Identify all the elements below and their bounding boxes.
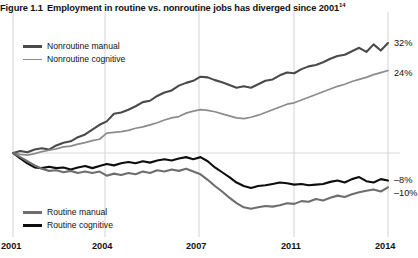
xtick-label-2007: 2007	[186, 241, 206, 251]
figure-footnote-marker: 14	[339, 2, 345, 8]
endpoint-label-routine-cognitive: –8%	[394, 175, 412, 185]
data-series-group	[13, 43, 388, 209]
legend-routine-cognitive[interactable]: Routine cognitive	[23, 219, 113, 232]
xtick-label-2004: 2004	[92, 241, 112, 251]
legend-swatch-icon	[23, 59, 42, 61]
figure-container: Figure 1.1Employment in routine vs. nonr…	[0, 0, 418, 258]
xtick-label-2011: 2011	[281, 241, 301, 251]
endpoint-label-routine-manual: –10%	[394, 188, 418, 198]
legend-routine-cognitive-label: Routine cognitive	[47, 219, 113, 232]
xtick-label-2001: 2001	[1, 241, 21, 251]
legend-swatch-icon	[23, 45, 42, 48]
endpoint-label-nonroutine-cognitive: 24%	[394, 68, 412, 78]
legend-nonroutine-cognitive[interactable]: Nonroutine cognitive	[23, 53, 125, 66]
legend-nonroutine-manual-label: Nonroutine manual	[47, 40, 120, 53]
xtick-label-2014: 2014	[375, 241, 395, 251]
legend-routine-manual[interactable]: Routine manual	[23, 206, 113, 219]
legend-swatch-icon	[23, 224, 42, 227]
endpoint-label-nonroutine-manual: 32%	[394, 38, 412, 48]
legend-routine-manual-label: Routine manual	[47, 206, 107, 219]
legend-nonroutine-manual[interactable]: Nonroutine manual	[23, 40, 125, 53]
x-axis-labels: 20012004200720112014	[0, 241, 418, 255]
legend-bottom: Routine manualRoutine cognitive	[23, 206, 113, 232]
legend-top: Nonroutine manualNonroutine cognitive	[23, 40, 125, 66]
legend-swatch-icon	[23, 211, 42, 213]
legend-nonroutine-cognitive-label: Nonroutine cognitive	[47, 53, 125, 66]
